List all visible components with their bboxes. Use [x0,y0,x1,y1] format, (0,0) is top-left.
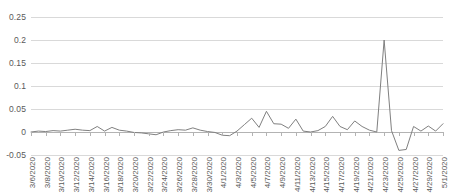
x-axis-tick-label: 4/7/2020 [263,157,272,188]
x-tick-mark [296,132,297,136]
x-axis-tick-label: 3/12/2020 [72,157,81,193]
x-axis-tick-label: 4/1/2020 [219,157,228,188]
x-tick-mark [428,132,429,136]
x-axis-tick-label: 4/17/2020 [337,157,346,193]
x-tick-mark [266,132,267,136]
x-axis-tick-label: 4/19/2020 [352,157,361,193]
x-axis-tick-label: 3/24/2020 [160,157,169,193]
x-axis-tick-label: 3/16/2020 [102,157,111,193]
x-tick-mark [252,132,253,136]
x-tick-mark [105,132,106,136]
y-axis-tick-label: 0.25 [0,12,26,22]
x-tick-mark [414,132,415,136]
x-axis-tick-label: 4/27/2020 [411,157,420,193]
y-axis-tick-label: -0.05 [0,150,26,160]
x-axis-tick-label: 3/6/2020 [28,157,37,188]
x-axis-tick-label: 3/20/2020 [131,157,140,193]
x-axis-labels: 3/6/20203/8/20203/10/20203/12/20203/14/2… [31,157,443,187]
x-tick-mark [163,132,164,136]
x-tick-mark [60,132,61,136]
x-tick-mark [369,132,370,136]
y-axis-tick-label: 0.05 [0,104,26,114]
x-tick-mark [119,132,120,136]
x-axis-tick-label: 3/22/2020 [146,157,155,193]
x-axis-tick-label: 3/28/2020 [190,157,199,193]
x-tick-mark [281,132,282,136]
x-axis-tick-label: 3/30/2020 [205,157,214,193]
x-axis-tick-label: 4/15/2020 [322,157,331,193]
x-axis-tick-label: 4/21/2020 [366,157,375,193]
x-tick-mark [443,132,444,136]
x-tick-mark [149,132,150,136]
x-tick-mark [340,132,341,136]
x-tick-mark [90,132,91,136]
x-axis-tick-label: 3/18/2020 [116,157,125,193]
x-axis-tick-label: 4/25/2020 [396,157,405,193]
x-tick-mark [31,132,32,136]
plot-area [31,17,443,155]
x-axis-tick-label: 4/13/2020 [308,157,317,193]
x-tick-mark [399,132,400,136]
y-axis-tick-label: 0.15 [0,58,26,68]
x-axis-tick-label: 4/9/2020 [278,157,287,188]
x-tick-mark [75,132,76,136]
x-tick-mark [222,132,223,136]
x-axis-tick-label: 4/23/2020 [381,157,390,193]
x-tick-mark [355,132,356,136]
x-axis-tick-label: 4/3/2020 [234,157,243,188]
x-tick-mark [193,132,194,136]
y-axis-tick-label: 0.1 [0,81,26,91]
x-tick-mark [208,132,209,136]
y-axis-tick-label: 0.2 [0,35,26,45]
x-tick-mark [384,132,385,136]
y-axis-tick-label: 0 [0,127,26,137]
x-axis-tick-label: 3/26/2020 [175,157,184,193]
x-axis-tick-label: 4/5/2020 [249,157,258,188]
x-tick-mark [325,132,326,136]
x-tick-mark [237,132,238,136]
x-axis-tick-label: 3/10/2020 [57,157,66,193]
x-tick-mark [134,132,135,136]
x-axis-tick-label: 3/8/2020 [43,157,52,188]
x-axis-tick-label: 5/1/2020 [440,157,449,188]
x-tick-mark [46,132,47,136]
x-axis-tick-label: 4/29/2020 [425,157,434,193]
x-tick-mark [311,132,312,136]
x-axis-tick-label: 3/14/2020 [87,157,96,193]
x-axis-tick-label: 4/11/2020 [293,157,302,192]
x-tick-mark [178,132,179,136]
